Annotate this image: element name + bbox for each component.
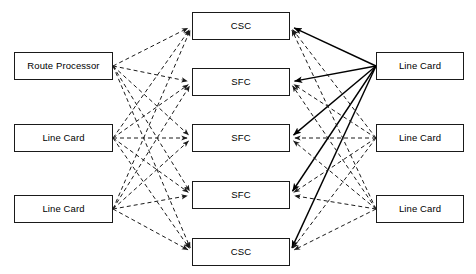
- node-sfc-2[interactable]: SFC: [192, 124, 290, 152]
- node-label: Line Card: [399, 61, 441, 71]
- link-R2-to-M3: [294, 196, 376, 209]
- node-label: SFC: [231, 77, 250, 87]
- link-R0-to-M3: [292, 66, 376, 191]
- node-label: CSC: [231, 21, 251, 31]
- node-line-card-0[interactable]: Line Card: [376, 52, 464, 80]
- link-L2-to-M1: [113, 86, 190, 209]
- node-route-processor-0[interactable]: Route Processor: [14, 52, 113, 80]
- link-R1-to-M3: [294, 138, 376, 193]
- link-L2-to-M2: [113, 141, 189, 209]
- node-label: Route Processor: [27, 61, 99, 71]
- link-R0-to-M4: [292, 66, 376, 248]
- node-sfc-3[interactable]: SFC: [192, 181, 290, 209]
- diagram-canvas: Route ProcessorLine CardLine Card CSCSFC…: [0, 0, 476, 274]
- node-label: Line Card: [399, 204, 441, 214]
- link-R0-to-M2: [293, 66, 376, 135]
- node-label: SFC: [231, 133, 250, 143]
- link-R2-to-M1: [293, 86, 376, 209]
- link-L0-to-M2: [113, 66, 189, 135]
- node-csc-4[interactable]: CSC: [192, 238, 290, 266]
- link-R2-to-M0: [292, 30, 376, 209]
- link-R0-to-M1: [294, 66, 376, 81]
- node-label: Line Card: [42, 133, 84, 143]
- link-L2-to-M3: [113, 196, 188, 209]
- link-L2-to-M0: [113, 30, 190, 209]
- link-L0-to-M3: [113, 66, 190, 191]
- node-line-card-2[interactable]: Line Card: [14, 195, 113, 223]
- link-L0-to-M1: [113, 66, 188, 81]
- link-L0-to-M4: [113, 66, 190, 248]
- link-L1-to-M3: [113, 138, 188, 192]
- node-csc-0[interactable]: CSC: [192, 12, 290, 40]
- node-label: Line Card: [399, 133, 441, 143]
- link-R2-to-M2: [293, 141, 376, 209]
- node-line-card-1[interactable]: Line Card: [14, 124, 113, 152]
- node-label: CSC: [231, 247, 251, 257]
- node-label: SFC: [231, 190, 250, 200]
- node-sfc-1[interactable]: SFC: [192, 68, 290, 96]
- node-line-card-1[interactable]: Line Card: [376, 124, 464, 152]
- node-line-card-2[interactable]: Line Card: [376, 195, 464, 223]
- left-link-group: [113, 28, 190, 250]
- node-label: Line Card: [42, 204, 84, 214]
- right-link-group: [292, 28, 376, 250]
- link-L1-to-M4: [113, 138, 189, 248]
